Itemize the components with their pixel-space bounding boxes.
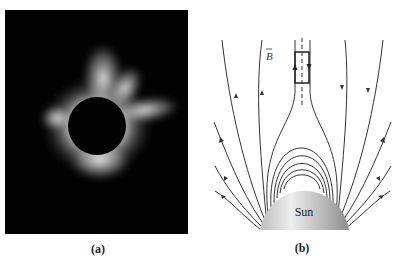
- field-line-diagram: B Sun: [200, 0, 401, 240]
- magnetic-field-diagram: B Sun: [200, 0, 401, 240]
- caption-a: (a): [78, 242, 118, 257]
- sun-label: Sun: [295, 205, 314, 219]
- caption-b: (b): [282, 241, 322, 256]
- arrow-up-icon: [293, 64, 298, 70]
- corona-image: [5, 10, 188, 234]
- moon-disk: [68, 97, 126, 155]
- arrow-down-icon: [307, 64, 312, 70]
- field-label-b: B: [266, 50, 273, 62]
- corona-photograph: [5, 10, 188, 234]
